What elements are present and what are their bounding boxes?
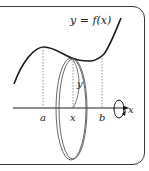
radius-label: y bbox=[76, 78, 83, 89]
tick-label-b: b bbox=[99, 112, 105, 123]
tick-label-a: a bbox=[40, 112, 46, 123]
disk-outer-ellipse bbox=[56, 58, 86, 160]
axis-label-x: x bbox=[128, 104, 134, 115]
tick-label-x: x bbox=[70, 112, 76, 123]
solid-of-revolution-diagram: y = f(x) y a x b x bbox=[0, 0, 149, 171]
curve-label: y = f(x) bbox=[69, 14, 111, 27]
rotation-icon bbox=[114, 100, 124, 118]
function-curve bbox=[14, 18, 121, 84]
